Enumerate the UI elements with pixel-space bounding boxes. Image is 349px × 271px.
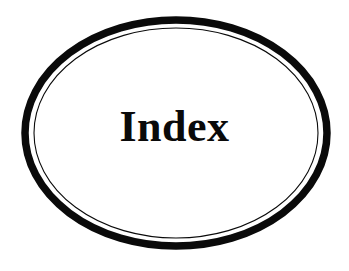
oval-border-graphic [0,0,349,271]
divider-page: Index [0,0,349,271]
page-background [0,0,349,271]
